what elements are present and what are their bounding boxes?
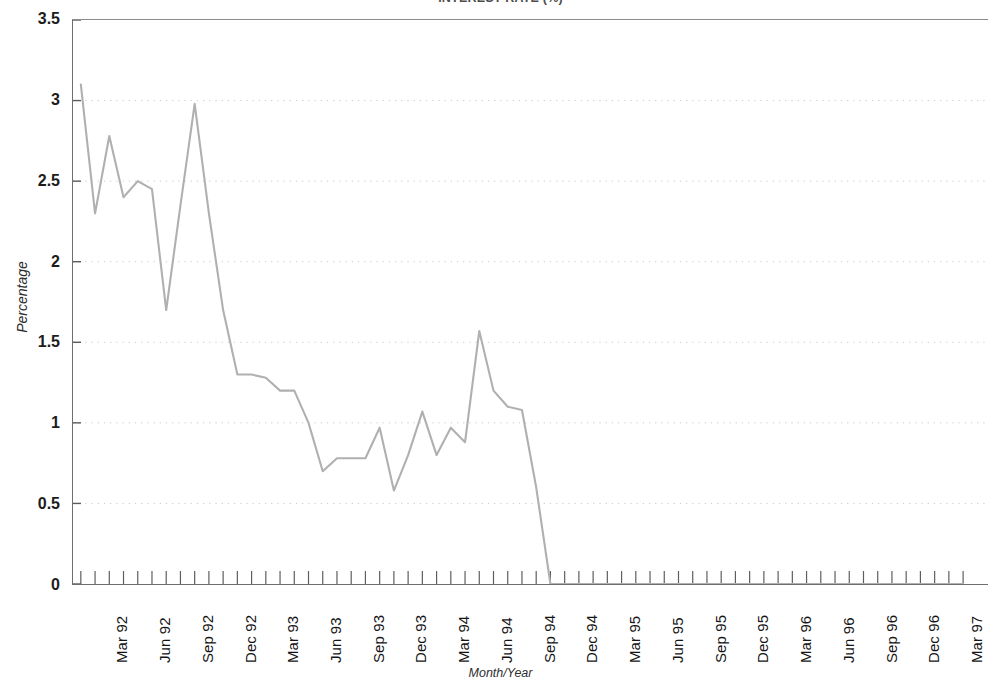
x-tick-label: Dec 92 [243,615,258,663]
x-tick-label: Dec 93 [413,615,428,663]
x-tick-label: Dec 95 [755,615,770,663]
x-tick-label: Jun 92 [157,617,172,663]
y-tick-label: 2.5 [38,173,60,189]
y-axis-title: Percentage [14,237,30,357]
y-tick-label: 1.5 [38,334,60,350]
x-tick-label: Sep 93 [371,615,386,663]
x-tick-label: Sep 96 [884,615,899,663]
x-tick-label: Dec 96 [926,615,941,663]
chart-title: INTEREST RATE (%) [0,0,1001,5]
y-tick-label: 1 [51,415,60,431]
data-series-line [81,84,963,584]
x-tick-label: Sep 94 [542,615,557,663]
y-tick-label: 3 [51,92,60,108]
x-tick-label: Sep 95 [713,615,728,663]
x-tick-label: Mar 96 [798,616,813,663]
plot-area [72,19,988,585]
x-tick-label: Mar 95 [627,616,642,663]
x-axis-title: Month/Year [0,666,1001,680]
x-tick-label: Mar 97 [969,616,984,663]
x-tick-label: Jun 96 [841,617,856,663]
y-tick-label: 3.5 [38,11,60,27]
x-tick-label: Jun 93 [328,617,343,663]
x-tick-label: Mar 93 [285,616,300,663]
chart-canvas [73,20,988,584]
x-axis: Mar 92Jun 92Sep 92Dec 92Mar 93Jun 93Sep … [0,585,1001,675]
x-tick-label: Mar 94 [456,616,471,663]
x-tick-label: Jun 94 [499,617,514,663]
x-tick-label: Mar 92 [114,616,129,663]
x-tick-label: Jun 95 [670,617,685,663]
y-tick-label: 0.5 [38,496,60,512]
x-tick-label: Dec 94 [584,615,599,663]
x-tick-label: Sep 92 [200,615,215,663]
y-tick-label: 2 [51,254,60,270]
